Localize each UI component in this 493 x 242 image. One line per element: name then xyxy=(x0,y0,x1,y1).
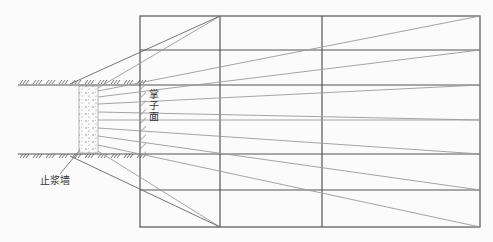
grouting-hole-line xyxy=(98,136,480,190)
hatch-mark xyxy=(46,154,49,158)
grouting-holes xyxy=(70,16,480,227)
hatch-mark xyxy=(52,154,55,158)
ground-hatching-top xyxy=(20,80,146,84)
hatch-mark xyxy=(124,80,127,84)
hatch-mark xyxy=(20,154,23,158)
face-label-char: 面 xyxy=(149,111,160,122)
grouting-hole-line xyxy=(98,128,480,154)
hatch-mark xyxy=(62,154,65,158)
hatch-mark xyxy=(23,154,26,158)
grouting-hole-line xyxy=(98,151,220,227)
hatch-mark xyxy=(36,80,39,84)
hatch-mark xyxy=(59,80,62,84)
hatch-mark xyxy=(36,154,39,158)
hatch-mark xyxy=(26,80,29,84)
hatch-mark xyxy=(33,154,36,158)
hatch-mark xyxy=(26,154,29,158)
hatch-mark xyxy=(130,80,133,84)
hatch-mark xyxy=(65,154,68,158)
hatch-mark xyxy=(23,80,26,84)
hatch-mark xyxy=(127,154,130,158)
tunnel-face-label: 掌子面 xyxy=(149,89,160,122)
diagram-canvas xyxy=(0,0,493,242)
hatch-mark xyxy=(98,80,101,84)
hatch-mark xyxy=(85,154,88,158)
hatch-mark xyxy=(85,80,88,84)
grouting-hole-line xyxy=(98,145,480,227)
ground-hatching-bottom xyxy=(20,154,146,158)
hatch-mark xyxy=(49,80,52,84)
hatch-mark xyxy=(65,80,68,84)
hatch-mark xyxy=(88,154,91,158)
hatch-mark xyxy=(114,154,117,158)
hatch-mark xyxy=(20,80,23,84)
hatch-mark xyxy=(124,154,127,158)
hatch-mark xyxy=(111,154,114,158)
hatch-mark xyxy=(127,80,130,84)
grouting-hole-line xyxy=(98,16,480,91)
hatch-mark xyxy=(62,80,65,84)
hatch-mark xyxy=(91,80,94,84)
hatch-mark xyxy=(130,154,133,158)
hatch-mark xyxy=(88,80,91,84)
grouting-hole-line xyxy=(98,16,220,88)
hatch-mark xyxy=(39,154,42,158)
grout-wall-label: 止浆墙 xyxy=(40,175,70,186)
hatch-mark xyxy=(78,154,81,158)
hatch-mark xyxy=(101,80,104,84)
hatch-mark xyxy=(46,80,49,84)
hatch-mark xyxy=(114,80,117,84)
grout-stop-wall xyxy=(79,86,98,153)
face-label-char: 子 xyxy=(149,100,160,111)
hatch-mark xyxy=(49,154,52,158)
hatch-mark xyxy=(111,80,114,84)
hatch-mark xyxy=(91,154,94,158)
hatch-mark xyxy=(39,80,42,84)
face-label-char: 掌 xyxy=(149,89,160,100)
hatch-mark xyxy=(117,80,120,84)
hatch-mark xyxy=(59,154,62,158)
hatch-mark xyxy=(98,154,101,158)
hatch-mark xyxy=(117,154,120,158)
hatch-mark xyxy=(52,80,55,84)
grid-border xyxy=(140,16,480,227)
hatch-mark xyxy=(33,80,36,84)
